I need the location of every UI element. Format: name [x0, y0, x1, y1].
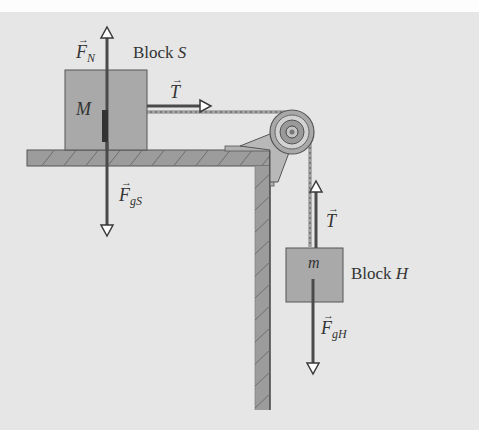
force-symbol: F — [321, 318, 332, 338]
force-subscript: gH — [332, 327, 347, 341]
block-h-mass-label: m — [308, 254, 320, 272]
vector-arrow-icon: → — [328, 202, 339, 214]
normal-force-label: →FN — [76, 42, 95, 66]
pulley-wheel — [270, 110, 314, 154]
force-symbol: T — [170, 82, 180, 102]
force-symbol: F — [119, 185, 130, 205]
block-h-var: H — [396, 264, 408, 283]
vector-arrow-icon: → — [121, 176, 132, 188]
vector-arrow-icon: → — [172, 73, 183, 85]
block-s-prefix: Block — [133, 43, 178, 62]
gravity-h-label: →FgH — [321, 318, 347, 342]
pulley-diagram — [0, 0, 479, 430]
tension-h-label: →T — [326, 211, 336, 232]
force-symbol: T — [326, 211, 336, 231]
force-subscript: gS — [130, 194, 142, 208]
force-symbol: F — [76, 42, 87, 62]
gravity-s-label: →FgS — [119, 185, 142, 209]
block-s-label: Block S — [133, 43, 186, 63]
block-h-prefix: Block — [351, 264, 396, 283]
tension-h-arrow — [310, 181, 322, 248]
vector-arrow-icon: → — [78, 33, 89, 45]
tension-s-label: →T — [170, 82, 180, 103]
force-subscript: N — [87, 51, 95, 65]
block-s-var: S — [178, 43, 187, 62]
table-wall — [253, 150, 272, 410]
vector-arrow-icon: → — [323, 309, 334, 321]
block-h-label: Block H — [351, 264, 408, 284]
block-s-mass-label: M — [76, 99, 91, 120]
